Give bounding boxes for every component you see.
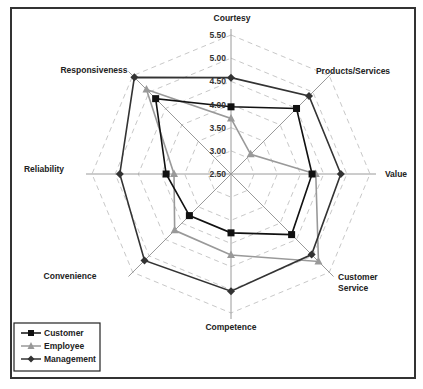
category-label: Convenience: [44, 271, 97, 281]
category-label: Courtesy: [214, 13, 251, 23]
square-marker-icon: [288, 231, 295, 238]
radial-tick-label: 5.00: [209, 53, 226, 63]
legend-label-management: Management: [44, 354, 96, 364]
radial-tick-label: 2.50: [209, 169, 226, 179]
square-marker-icon: [293, 105, 300, 112]
square-marker-icon: [309, 171, 316, 178]
square-marker-icon: [228, 103, 235, 110]
axis-line: [231, 71, 334, 174]
legend: Customer Employee Management: [14, 323, 100, 371]
category-label: Competence: [205, 322, 256, 332]
square-marker-icon: [228, 229, 235, 236]
radial-tick-label: 4.50: [209, 76, 226, 86]
diamond-marker-icon: [337, 170, 345, 178]
category-label: Products/Services: [316, 66, 390, 76]
square-marker-icon: [186, 212, 193, 219]
radar-chart: 2.503.003.504.004.505.005.50 CourtesyPro…: [0, 0, 423, 389]
data-series: [116, 73, 345, 295]
radial-tick-label: 3.50: [209, 123, 226, 133]
triangle-marker-icon: [170, 170, 178, 178]
category-label: Value: [385, 169, 407, 179]
square-marker-icon: [152, 95, 159, 102]
diamond-marker-icon: [116, 170, 124, 178]
category-label: Service: [338, 283, 369, 293]
radial-tick-label: 4.00: [209, 100, 226, 110]
square-marker-icon: [163, 171, 170, 178]
category-label: Responsiveness: [60, 65, 127, 75]
category-label: Reliability: [24, 164, 64, 174]
square-marker-icon: [28, 330, 34, 336]
category-label: Customer: [338, 272, 378, 282]
diamond-marker-icon: [227, 74, 235, 82]
radial-tick-label: 5.50: [209, 30, 226, 40]
legend-label-employee: Employee: [44, 341, 84, 351]
legend-label-customer: Customer: [44, 328, 84, 338]
radial-tick-label: 3.00: [209, 146, 226, 156]
